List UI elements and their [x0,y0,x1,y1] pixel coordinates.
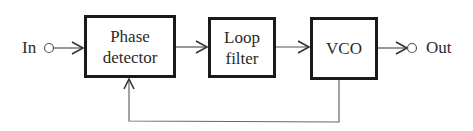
loop-filter-block: Loop filter [208,17,276,78]
input-label: In [22,38,36,58]
vco-block: VCO [310,17,378,80]
feedback-path [129,79,339,122]
input-terminal-icon [45,44,54,53]
block-label-line2: detector [103,47,158,68]
pll-block-diagram: In Out Phase detector Loop filter VCO [0,0,473,131]
output-label: Out [426,38,452,58]
block-label-line1: VCO [326,38,362,59]
phase-detector-block: Phase detector [84,15,176,78]
block-label-line1: Phase [103,26,158,47]
block-label-line2: filter [224,48,260,69]
output-terminal-icon [408,44,417,53]
block-label-line1: Loop [224,27,260,48]
